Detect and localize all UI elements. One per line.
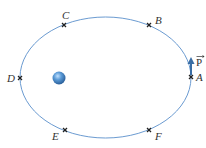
momentum-arrow: [188, 57, 195, 75]
orbit-diagram: P A B C D E F: [0, 0, 206, 148]
point-label-e: E: [51, 130, 59, 142]
point-label-d: D: [6, 72, 15, 84]
vector-arrowhead-accent: [203, 55, 205, 58]
point-label-b: B: [155, 14, 162, 26]
point-label-f: F: [154, 130, 162, 142]
central-body: [53, 72, 66, 85]
orbit-ellipse: [20, 17, 191, 138]
momentum-label: P: [196, 56, 202, 68]
point-label-c: C: [62, 9, 70, 21]
point-label-a: A: [195, 71, 203, 83]
